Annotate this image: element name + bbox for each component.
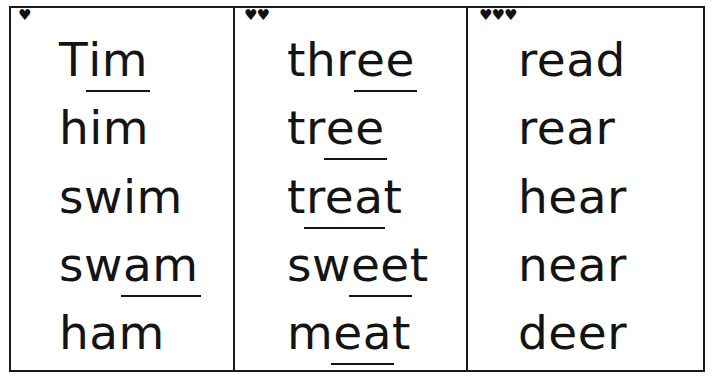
word-segment-plain: tr [287,100,326,155]
word-text: deer [518,309,627,356]
word-row: rear [470,93,705,161]
word-segment-plain: sw [287,237,351,292]
word-text: sweet [287,241,429,288]
word-segment-plain: t [287,169,306,224]
word-list-3: readrearhearneardeer [470,25,705,366]
word-segment-underlined: im [88,36,148,83]
word-text: tree [287,104,385,151]
word-row: ham [9,298,235,366]
word-segment-underlined: rea [306,173,384,220]
word-segment-plain: T [59,32,88,87]
word-segment-underlined: am [123,241,199,288]
heart-icon-group-2: ♥♥ [244,8,269,23]
word-text: treat [287,173,402,220]
word-text: rear [518,104,615,151]
word-row: treat [235,162,470,230]
word-text: near [518,241,627,288]
word-list-1: Timhimswimswamham [9,25,235,366]
word-row: swim [9,162,235,230]
word-row: swam [9,230,235,298]
word-text: Tim [59,36,148,83]
word-column-3: ♥♥♥ readrearhearneardeer [470,6,705,372]
word-list-2: threetreetreatsweetmeat [235,25,470,366]
word-row: tree [235,93,470,161]
word-text: swim [59,173,183,220]
word-segment-plain: m [287,305,333,360]
word-text: him [59,104,149,151]
word-row: meat [235,298,470,366]
word-segment-underlined: ee [351,241,410,288]
word-row: deer [470,298,705,366]
word-segment-plain: t [392,305,411,360]
word-segment-underlined: ea [333,309,392,356]
word-text: hear [518,173,627,220]
heart-icon-group-1: ♥ [18,8,30,23]
word-row: sweet [235,230,470,298]
word-segment-underlined: ee [326,104,385,151]
word-row: hear [470,162,705,230]
word-segment-plain: t [383,169,402,224]
word-text: swam [59,241,199,288]
word-text: meat [287,309,411,356]
word-segment-plain: sw [59,237,123,292]
word-column-1: ♥ Timhimswimswamham [9,6,235,372]
word-text: read [518,36,626,83]
heart-icon-group-3: ♥♥♥ [479,8,516,23]
word-row: Tim [9,25,235,93]
word-columns-container: ♥ Timhimswimswamham ♥♥ threetreetreatswe… [9,6,705,372]
word-row: near [470,230,705,298]
word-segment-plain: thr [287,32,356,87]
word-row: three [235,25,470,93]
worksheet-page: ♥ Timhimswimswamham ♥♥ threetreetreatswe… [0,0,713,384]
word-segment-underlined: ee [356,36,415,83]
word-text: three [287,36,415,83]
word-row: read [470,25,705,93]
word-text: ham [59,309,165,356]
word-column-2: ♥♥ threetreetreatsweetmeat [235,6,470,372]
word-row: him [9,93,235,161]
word-segment-plain: t [410,237,429,292]
